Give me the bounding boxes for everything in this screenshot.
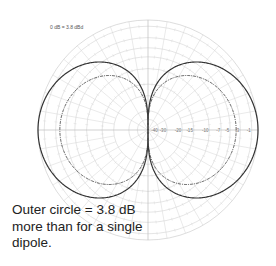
caption-line-2: more than for a single	[12, 219, 162, 236]
svg-text:-7: -7	[216, 128, 220, 133]
svg-text:-15: -15	[186, 128, 193, 133]
caption-line-1: Outer circle = 3.8 dB	[12, 202, 162, 219]
svg-text:-1: -1	[247, 128, 251, 133]
svg-text:-20: -20	[175, 128, 182, 133]
caption-line-3: dipole.	[12, 235, 162, 252]
reference-gain-label: 0 dB = 3.8 dBd	[50, 24, 83, 30]
svg-text:-40: -40	[151, 128, 158, 133]
svg-text:-5: -5	[225, 128, 229, 133]
svg-text:-30: -30	[160, 128, 167, 133]
caption-annotation: Outer circle = 3.8 dB more than for a si…	[12, 202, 162, 252]
svg-text:-10: -10	[202, 128, 209, 133]
